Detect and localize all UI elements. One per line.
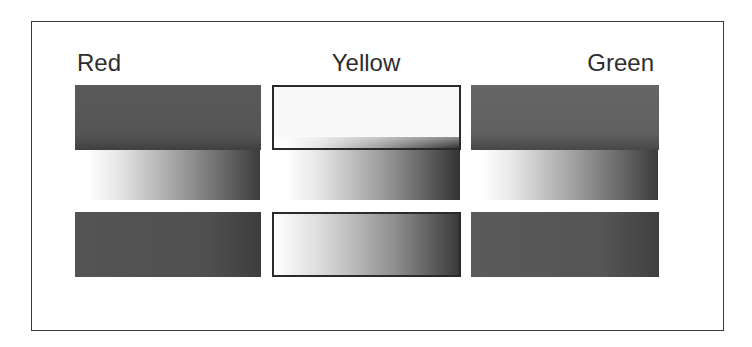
column-label-green: Green bbox=[471, 48, 654, 78]
yellow-bottom-swatch bbox=[272, 212, 461, 277]
green-bottom-swatch bbox=[471, 212, 659, 277]
yellow-top-swatch-fill bbox=[274, 87, 459, 135]
green-top-swatch bbox=[471, 85, 659, 150]
yellow-top-swatch bbox=[272, 85, 461, 150]
red-top-swatch bbox=[75, 85, 261, 150]
red-bottom-swatch bbox=[75, 212, 261, 277]
column-label-yellow: Yellow bbox=[272, 48, 460, 78]
column-label-red: Red bbox=[77, 48, 121, 78]
